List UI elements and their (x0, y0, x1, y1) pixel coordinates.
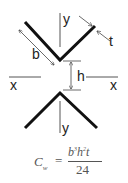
y-label-bottom: y (62, 120, 69, 136)
x-label-left: x (10, 77, 17, 93)
h-label: h (77, 68, 85, 84)
y-label-top: y (63, 11, 70, 27)
t-label: t (109, 33, 113, 49)
x-label-right: x (110, 77, 117, 93)
warping-constant-formula: Cw = b3h2t 24 (30, 145, 110, 179)
bottom-angle (25, 93, 97, 128)
formula-lhs: Cw (34, 154, 47, 172)
b-label: b (32, 46, 40, 62)
formula-numerator: b3h2t (68, 145, 89, 160)
formula-denominator: 24 (76, 162, 89, 178)
formula-equals: = (55, 153, 62, 169)
